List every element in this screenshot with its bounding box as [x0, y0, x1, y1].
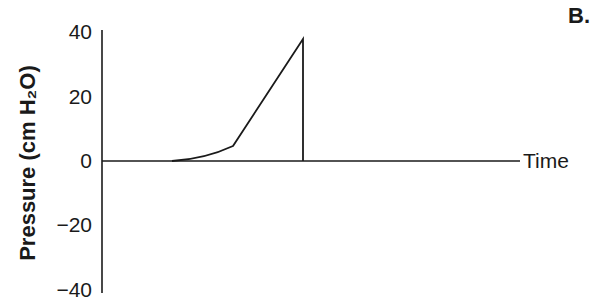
pressure-curve: [172, 39, 303, 161]
chart-plot: [0, 0, 595, 301]
